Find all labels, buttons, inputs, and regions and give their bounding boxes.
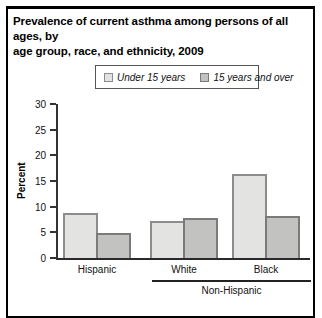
y-tick-mark	[50, 103, 56, 105]
y-tick-label: 20	[20, 151, 46, 161]
bar-white-15-and-over	[183, 218, 218, 258]
bar-black-under-15	[232, 174, 267, 258]
non-hispanic-rule	[152, 280, 311, 282]
x-label-hispanic: Hispanic	[47, 265, 147, 275]
legend-swatch-icon	[200, 73, 209, 82]
bar-white-under-15	[150, 221, 185, 259]
y-tick-mark	[50, 257, 56, 259]
y-tick-label: 25	[20, 126, 46, 136]
legend-label: Under 15 years	[117, 72, 185, 83]
chart-title-line-1: Prevalence of current asthma among perso…	[13, 14, 307, 44]
y-tick-label: 15	[20, 177, 46, 187]
y-tick-label: 0	[20, 254, 46, 264]
y-tick-mark	[50, 129, 56, 131]
bar-black-15-and-over	[265, 216, 300, 258]
legend-item-1: 15 years and over	[200, 72, 293, 83]
legend-item-0: Under 15 years	[104, 72, 185, 83]
figure-frame: Prevalence of current asthma among perso…	[6, 6, 315, 318]
legend-label: 15 years and over	[213, 72, 293, 83]
y-tick-mark	[50, 206, 56, 208]
legend: Under 15 years15 years and over	[95, 65, 259, 89]
y-tick-mark	[50, 154, 56, 156]
x-label-black: Black	[216, 265, 316, 275]
y-tick-mark	[50, 180, 56, 182]
bar-hispanic-under-15	[63, 213, 98, 258]
non-hispanic-label: Non-Hispanic	[172, 286, 292, 296]
chart-title: Prevalence of current asthma among perso…	[13, 14, 307, 60]
y-tick-mark	[50, 231, 56, 233]
y-tick-label: 5	[20, 228, 46, 238]
chart-title-line-2: age group, race, and ethnicity, 2009	[13, 44, 307, 59]
legend-swatch-icon	[104, 73, 113, 82]
y-tick-label: 30	[20, 100, 46, 110]
bar-hispanic-15-and-over	[96, 233, 131, 258]
y-tick-label: 10	[20, 203, 46, 213]
plot-area: 051015202530	[56, 104, 310, 260]
